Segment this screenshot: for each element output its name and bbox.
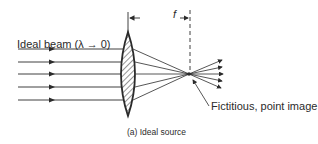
diverging-rays bbox=[189, 60, 223, 88]
beam-label: Ideal beam (λ → 0) bbox=[17, 38, 111, 50]
figure-caption: (a) Ideal source bbox=[127, 127, 186, 137]
ray-arrow-icons bbox=[49, 47, 55, 103]
converging-rays bbox=[133, 49, 189, 100]
incoming-rays bbox=[18, 49, 124, 100]
point-label-leader bbox=[193, 80, 209, 106]
lens bbox=[121, 32, 135, 116]
point-image-label: Fictitious, point image bbox=[211, 100, 317, 112]
focal-point bbox=[187, 72, 191, 76]
focal-length-label: f bbox=[173, 8, 176, 20]
lens-diagram bbox=[0, 0, 318, 144]
